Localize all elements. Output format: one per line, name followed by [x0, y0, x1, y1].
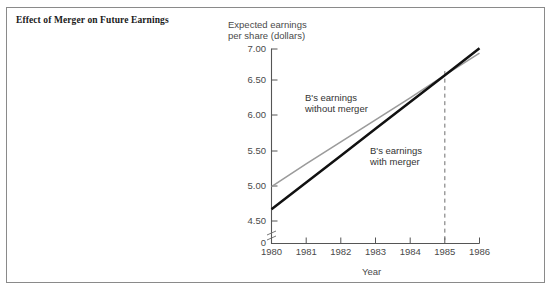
y-tick-labels: 7.00 6.50 6.00 5.50 5.00 4.50 0: [248, 43, 267, 248]
x-tick-label: 1984: [400, 246, 421, 257]
x-tick-labels: 1980 1981 1982 1983 1984 1985 1986: [261, 246, 490, 257]
x-tick-label: 1982: [330, 246, 351, 257]
annot-without-merger: B's earnings without merger: [304, 92, 368, 114]
annot-without-merger-line1: B's earnings: [305, 92, 357, 103]
annot-with-merger-line1: B's earnings: [370, 145, 422, 156]
annot-without-merger-line2: without merger: [304, 103, 368, 114]
annot-with-merger-line2: with merger: [369, 156, 420, 167]
x-tick-label: 1981: [296, 246, 317, 257]
annot-with-merger: B's earnings with merger: [369, 145, 422, 167]
x-tick-label: 1983: [365, 246, 386, 257]
series-line-with-merger: [272, 48, 480, 209]
figure-frame: Effect of Merger on Future Earnings Expe…: [6, 7, 545, 283]
y-tick-marks: [272, 49, 278, 221]
x-tick-label: 1980: [261, 246, 282, 257]
y-tick-label: 5.00: [248, 180, 267, 191]
x-tick-label: 1985: [434, 246, 455, 257]
x-tick-marks: [272, 238, 480, 244]
y-tick-label: 5.50: [248, 145, 267, 156]
y-tick-label: 7.00: [248, 43, 267, 54]
y-tick-label: 6.50: [248, 74, 267, 85]
y-tick-label: 6.00: [248, 109, 267, 120]
y-tick-label: 4.50: [248, 215, 267, 226]
x-tick-label: 1986: [469, 246, 490, 257]
line-chart-plot: 7.00 6.50 6.00 5.50 5.00 4.50 0 1980 198…: [7, 8, 545, 283]
